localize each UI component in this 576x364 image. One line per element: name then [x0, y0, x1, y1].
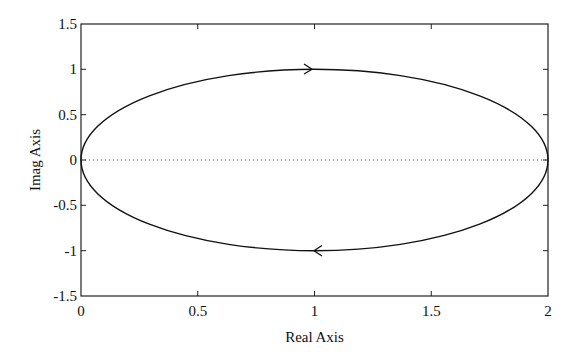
nyquist-plot: 1.5 1 0.5 0 -0.5 -1 -1.5 0 0.5 1 1.5 2 R… — [0, 0, 576, 364]
y-tick-label: 1 — [70, 61, 78, 77]
y-tick-label: 0 — [70, 152, 78, 168]
x-axis-label: Real Axis — [285, 329, 344, 345]
y-tick-label: 0.5 — [58, 107, 77, 123]
x-tick-labels: 0 0.5 1 1.5 2 — [77, 303, 552, 319]
y-tick-labels: 1.5 1 0.5 0 -0.5 -1 -1.5 — [53, 16, 77, 304]
y-tick-label: 1.5 — [58, 16, 77, 32]
x-tick-label: 2 — [544, 303, 552, 319]
x-tick-label: 0.5 — [188, 303, 207, 319]
y-tick-label: -1.5 — [53, 288, 77, 304]
y-axis-label: Imag Axis — [27, 129, 43, 191]
y-tick-label: -0.5 — [53, 197, 77, 213]
x-tick-label: 1 — [311, 303, 319, 319]
x-tick-label: 0 — [77, 303, 85, 319]
x-tick-label: 1.5 — [422, 303, 441, 319]
y-tick-label: -1 — [65, 243, 78, 259]
